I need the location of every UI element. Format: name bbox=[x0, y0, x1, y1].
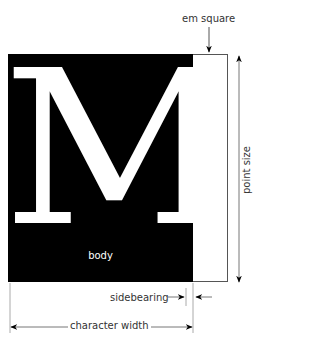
character-width-label: character width bbox=[68, 321, 151, 331]
point-size-label: point size bbox=[242, 142, 252, 198]
sidebearing-label: sidebearing bbox=[110, 293, 169, 303]
em-square-label: em square bbox=[182, 14, 235, 24]
